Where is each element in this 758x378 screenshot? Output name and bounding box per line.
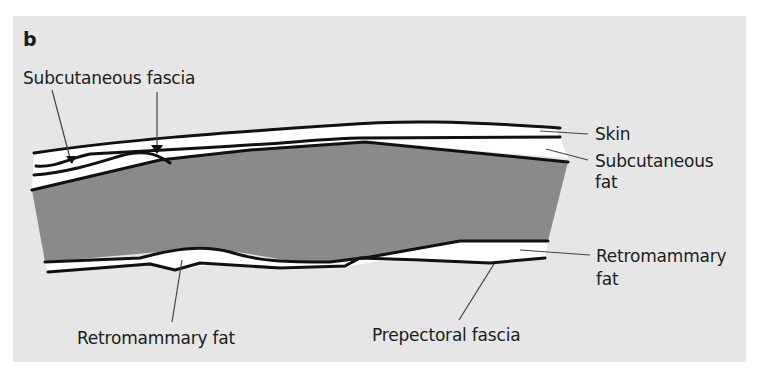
label-prepectoral-fascia: Prepectoral fascia: [372, 325, 520, 345]
label-retromammary-fat-right-line1: Retromammary: [596, 246, 726, 266]
label-retromammary-fat-bottom: Retromammary fat: [77, 328, 235, 348]
leader-prepectoral-fascia: [459, 264, 494, 320]
label-subcutaneous-fascia: Subcutaneous fascia: [23, 68, 195, 88]
label-subcutaneous-fat-line1: Subcutaneous: [595, 151, 713, 171]
panel-letter: b: [23, 28, 37, 50]
breast-layers-diagram: [0, 0, 758, 378]
label-skin: Skin: [595, 124, 630, 144]
label-retromammary-fat-right-line2: fat: [596, 269, 618, 289]
label-subcutaneous-fat-line2: fat: [595, 172, 617, 192]
